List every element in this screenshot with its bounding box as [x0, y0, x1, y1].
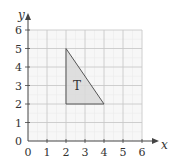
x-tick-2: 2: [63, 146, 70, 159]
y-tick-6: 6: [15, 24, 22, 37]
x-tick-6: 6: [139, 146, 146, 159]
triangle-label: T: [73, 79, 81, 93]
x-tick-labels: 0 1 2 3 4 5 6: [25, 146, 146, 159]
x-axis-arrow-icon: [152, 138, 159, 144]
y-tick-3: 3: [15, 80, 22, 93]
x-tick-4: 4: [101, 146, 108, 159]
y-axis-arrow-icon: [25, 13, 31, 20]
y-tick-1: 1: [15, 117, 22, 130]
x-tick-5: 5: [120, 146, 127, 159]
y-tick-labels: 0 1 2 3 4 5 6: [15, 24, 22, 148]
y-axis-label: y: [17, 8, 25, 22]
y-tick-0: 0: [15, 135, 22, 148]
x-axis-label: x: [161, 138, 168, 152]
y-tick-5: 5: [15, 43, 22, 56]
coordinate-grid-diagram: T 0 1 2 3 4 5 6 0 1 2 3 4 5 6 x y: [0, 0, 170, 166]
x-tick-0: 0: [25, 146, 32, 159]
y-tick-4: 4: [15, 61, 22, 74]
x-tick-1: 1: [44, 146, 51, 159]
y-tick-2: 2: [15, 98, 22, 111]
x-tick-3: 3: [82, 146, 89, 159]
